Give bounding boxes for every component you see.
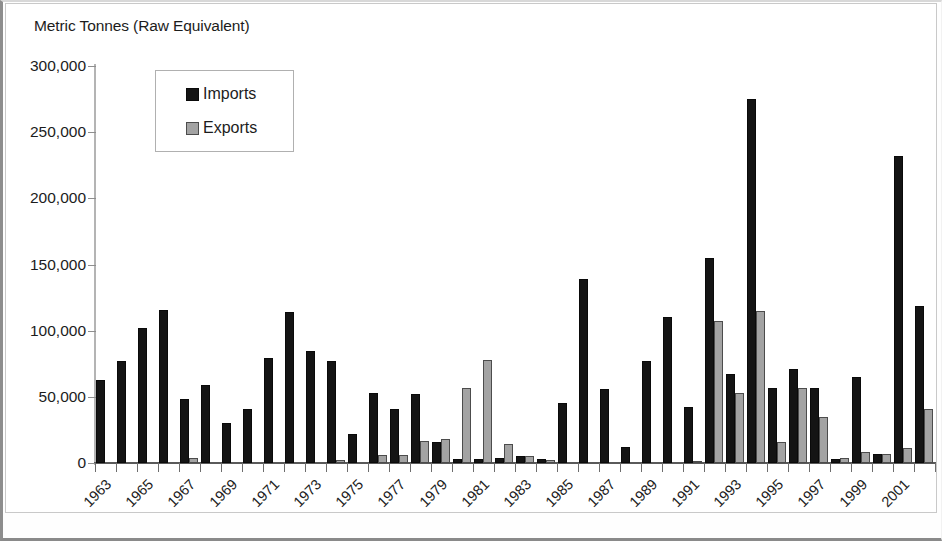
bar-imports xyxy=(306,351,315,463)
x-axis-tick xyxy=(935,463,936,472)
x-axis-tick xyxy=(431,463,432,472)
bar-imports xyxy=(726,374,735,463)
bar-imports xyxy=(789,369,798,463)
bar-imports xyxy=(705,258,714,463)
y-axis-tick xyxy=(88,397,96,398)
bar-exports xyxy=(378,455,387,463)
x-axis-tick xyxy=(221,463,222,472)
bar-imports xyxy=(432,442,441,463)
x-axis-tick xyxy=(326,463,327,472)
bar-exports xyxy=(819,417,828,463)
chart-title: Metric Tonnes (Raw Equivalent) xyxy=(34,17,250,35)
bar-exports xyxy=(546,460,555,463)
bar-imports xyxy=(390,409,399,463)
x-axis-tick xyxy=(347,463,348,472)
bar-imports xyxy=(138,328,147,463)
y-axis-tick xyxy=(88,331,96,332)
x-axis-tick xyxy=(830,463,831,472)
y-axis-label: 200,000 xyxy=(0,189,86,207)
bar-imports xyxy=(264,358,273,463)
legend-label-imports: Imports xyxy=(203,85,256,103)
bar-imports xyxy=(327,361,336,463)
x-axis-tick xyxy=(263,463,264,472)
bar-exports xyxy=(336,460,345,463)
bar-exports xyxy=(504,444,513,463)
y-axis-label: 150,000 xyxy=(0,256,86,274)
bar-exports xyxy=(756,311,765,463)
y-axis-tick xyxy=(88,198,96,199)
bar-imports xyxy=(684,407,693,463)
bar-imports xyxy=(369,393,378,463)
x-axis-tick xyxy=(851,463,852,472)
bar-imports xyxy=(495,458,504,463)
bar-exports xyxy=(525,456,534,463)
bar-imports xyxy=(915,306,924,463)
y-axis-label: 50,000 xyxy=(0,388,86,406)
bar-exports xyxy=(441,439,450,463)
x-axis-tick xyxy=(578,463,579,472)
x-axis-tick xyxy=(788,463,789,472)
legend-swatch-exports-icon xyxy=(186,122,199,135)
x-axis-tick xyxy=(95,463,96,472)
x-axis-tick xyxy=(914,463,915,472)
bar-exports xyxy=(798,388,807,463)
bar-imports xyxy=(243,409,252,463)
bar-exports xyxy=(462,388,471,463)
x-axis-tick xyxy=(515,463,516,472)
bar-imports xyxy=(516,456,525,463)
bar-imports xyxy=(810,388,819,463)
x-axis-tick xyxy=(305,463,306,472)
bar-imports xyxy=(873,454,882,463)
x-axis-tick xyxy=(662,463,663,472)
bar-imports xyxy=(474,459,483,463)
x-axis-tick xyxy=(494,463,495,472)
bar-exports xyxy=(903,448,912,463)
x-axis-tick xyxy=(137,463,138,472)
x-axis-tick xyxy=(599,463,600,472)
bar-exports xyxy=(714,321,723,463)
x-axis-tick xyxy=(809,463,810,472)
bar-imports xyxy=(663,317,672,463)
bar-exports xyxy=(693,461,702,463)
x-axis-tick xyxy=(641,463,642,472)
x-axis-tick xyxy=(242,463,243,472)
bar-imports xyxy=(621,447,630,463)
y-axis-tick xyxy=(88,132,96,133)
bar-exports xyxy=(924,409,933,463)
bar-exports xyxy=(420,441,429,463)
bar-exports xyxy=(882,454,891,463)
x-axis-tick xyxy=(473,463,474,472)
bar-imports xyxy=(747,99,756,463)
x-axis-tick xyxy=(452,463,453,472)
x-axis-tick xyxy=(704,463,705,472)
y-axis-tick xyxy=(88,265,96,266)
chart-legend: Imports Exports xyxy=(155,70,294,152)
x-axis-tick xyxy=(893,463,894,472)
bar-imports xyxy=(159,310,168,464)
x-axis-tick xyxy=(746,463,747,472)
x-axis-tick xyxy=(368,463,369,472)
y-axis-label: 250,000 xyxy=(0,123,86,141)
bar-imports xyxy=(894,156,903,463)
legend-swatch-imports-icon xyxy=(186,88,199,101)
bar-imports xyxy=(348,434,357,463)
legend-item-exports: Exports xyxy=(186,119,257,137)
bar-exports xyxy=(840,458,849,463)
bar-imports xyxy=(768,388,777,463)
y-axis-tick xyxy=(88,66,96,67)
x-axis-tick xyxy=(683,463,684,472)
y-axis-label: 100,000 xyxy=(0,322,86,340)
bar-imports xyxy=(642,361,651,463)
x-axis-tick xyxy=(200,463,201,472)
bar-imports xyxy=(558,403,567,463)
bar-imports xyxy=(537,459,546,463)
x-axis-tick xyxy=(116,463,117,472)
bar-imports xyxy=(117,361,126,463)
x-axis-tick xyxy=(284,463,285,472)
bar-exports xyxy=(483,360,492,463)
bar-exports xyxy=(399,455,408,463)
bar-imports xyxy=(579,279,588,463)
bar-imports xyxy=(222,423,231,463)
x-axis-tick xyxy=(410,463,411,472)
x-axis-tick xyxy=(536,463,537,472)
